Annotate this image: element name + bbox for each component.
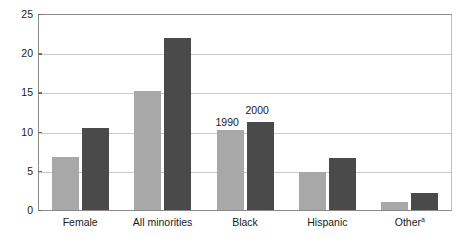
x-axis-label-other: Othera (395, 216, 425, 229)
bar-other-2000 (411, 193, 438, 210)
bar-all-minorities-2000 (164, 38, 191, 210)
x-axis-label-superscript: a (421, 216, 425, 223)
y-tick-label-5: 5 (3, 166, 33, 177)
bar-hispanic-2000 (329, 158, 356, 210)
series-annotation-1990: 1990 (216, 117, 239, 128)
bar-chart: 25 20 15 10 5 0 19902000 FemaleAll minor… (0, 0, 464, 246)
bar-female-2000 (82, 128, 109, 210)
y-axis-labels: 25 20 15 10 5 0 (0, 14, 33, 211)
x-axis-label-black: Black (232, 216, 258, 229)
bar-other-1990 (381, 202, 408, 210)
bar-all-minorities-1990 (134, 91, 161, 210)
x-axis-label-female: Female (63, 216, 98, 229)
y-tick-label-20: 20 (3, 48, 33, 59)
y-tick-label-10: 10 (3, 126, 33, 137)
y-tick-label-25: 25 (3, 9, 33, 20)
x-axis-label-hispanic: Hispanic (307, 216, 347, 229)
y-tick-label-15: 15 (3, 87, 33, 98)
x-axis-label-all-minorities: All minorities (133, 216, 193, 229)
x-axis-labels: FemaleAll minoritiesBlackHispanicOthera (39, 216, 451, 242)
bar-black-2000 (247, 122, 274, 210)
bar-black-1990 (217, 130, 244, 210)
bar-female-1990 (52, 157, 79, 210)
bar-hispanic-1990 (299, 172, 326, 210)
series-annotation-2000: 2000 (246, 105, 269, 116)
y-tick-mark-0 (38, 210, 42, 211)
y-tick-label-0: 0 (3, 205, 33, 216)
